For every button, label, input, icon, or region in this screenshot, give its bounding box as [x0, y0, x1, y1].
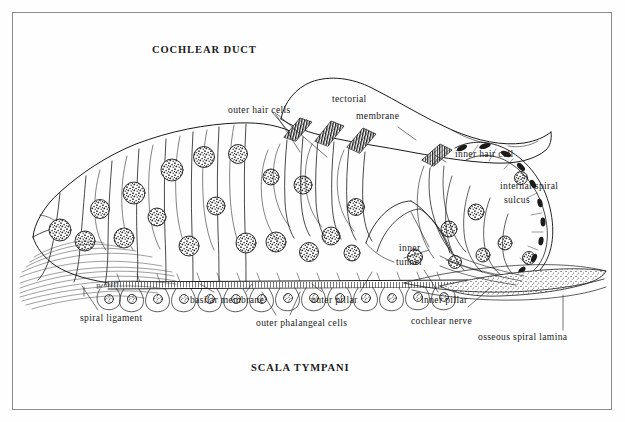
spiral-ligament-fibers — [20, 241, 176, 309]
label-tectorial: tectorial — [332, 93, 367, 104]
label-outer-pillar: outer pillar — [311, 294, 358, 305]
heading-scala-tympani: SCALA TYMPANI — [251, 362, 350, 374]
label-inner-hair-cell: inner hair cell — [455, 148, 514, 159]
label-tunnel: tunnel — [396, 256, 422, 267]
label-outer-hair-cells: outer hair cells — [228, 104, 291, 115]
label-osseous-spiral-lamina: osseous spiral lamina — [478, 331, 567, 342]
label-internal-spiral: internal spiral — [500, 180, 558, 191]
organ-of-corti-drawing — [0, 0, 625, 422]
label-inner: inner — [399, 242, 420, 253]
label-basilar-membrane: basilar membrane — [190, 294, 264, 305]
label-spiral-ligament: spiral ligament — [80, 312, 143, 323]
inner-hair-cell-group — [417, 144, 466, 258]
label-inner-pillar: inner pillar — [421, 294, 468, 305]
label-outer-phalangeal-cells: outer phalangeal cells — [256, 317, 347, 328]
label-sulcus: sulcus — [504, 194, 530, 205]
sub-basilar-cell-row — [97, 287, 455, 312]
label-cochlear-nerve: cochlear nerve — [411, 315, 472, 326]
label-membrane: membrane — [356, 110, 399, 121]
heading-cochlear-duct: COCHLEAR DUCT — [152, 44, 257, 56]
stereocilia-outer-2 — [315, 121, 344, 146]
figure-page: COCHLEAR DUCT SCALA TYMPANI outer hair c… — [0, 0, 625, 422]
